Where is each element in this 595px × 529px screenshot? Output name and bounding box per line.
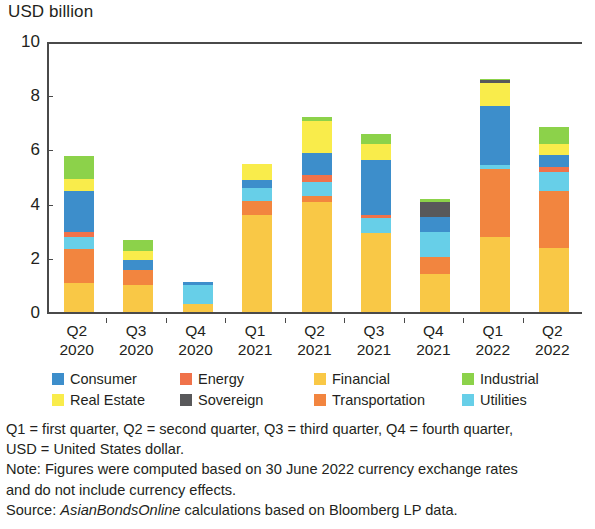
bar-segment-consumer[interactable] bbox=[302, 153, 332, 175]
bar-group[interactable] bbox=[480, 79, 510, 313]
x-axis-label-year: 2021 bbox=[403, 340, 463, 359]
bar-segment-industrial[interactable] bbox=[123, 240, 153, 251]
y-axis-tick-label: 2 bbox=[0, 249, 40, 269]
legend-item-label: Real Estate bbox=[70, 392, 145, 408]
legend-item-label: Sovereign bbox=[198, 392, 263, 408]
stacked-bar[interactable] bbox=[302, 117, 332, 313]
bar-segment-utilities[interactable] bbox=[361, 218, 391, 233]
stacked-bar[interactable] bbox=[183, 282, 213, 313]
bar-segment-consumer[interactable] bbox=[123, 260, 153, 269]
stacked-bar[interactable] bbox=[480, 79, 510, 313]
bar-segment-financial[interactable] bbox=[480, 237, 510, 313]
legend-item-real-estate[interactable]: Real Estate bbox=[52, 392, 180, 408]
legend-item-label: Transportation bbox=[332, 392, 425, 408]
y-axis-tick-mark bbox=[47, 205, 53, 206]
bar-segment-sovereign[interactable] bbox=[420, 202, 450, 217]
bar-segment-real-estate[interactable] bbox=[64, 179, 94, 191]
bar-group[interactable] bbox=[123, 240, 153, 313]
bar-segment-real-estate[interactable] bbox=[123, 251, 153, 260]
y-axis-tick-label: 4 bbox=[0, 195, 40, 215]
bar-segment-utilities[interactable] bbox=[183, 285, 213, 304]
stacked-bar[interactable] bbox=[64, 156, 94, 313]
bar-segment-industrial[interactable] bbox=[361, 134, 391, 143]
bar-segment-financial[interactable] bbox=[539, 248, 569, 313]
x-axis-label-quarter: Q2 bbox=[285, 321, 345, 340]
bar-segment-transportation[interactable] bbox=[480, 169, 510, 237]
footnote-note-line2: and do not include currency effects. bbox=[6, 480, 594, 500]
bar-segment-transportation[interactable] bbox=[123, 270, 153, 285]
bar-segment-consumer[interactable] bbox=[480, 106, 510, 166]
bar-segment-financial[interactable] bbox=[242, 215, 272, 313]
x-axis-label-quarter: Q4 bbox=[166, 321, 226, 340]
bar-segment-financial[interactable] bbox=[361, 233, 391, 313]
source-prefix: Source: bbox=[6, 502, 60, 518]
bar-segment-real-estate[interactable] bbox=[302, 121, 332, 154]
x-axis-label-quarter: Q2 bbox=[522, 321, 582, 340]
bar-segment-industrial[interactable] bbox=[539, 127, 569, 143]
bar-group[interactable] bbox=[64, 156, 94, 313]
bar-segment-financial[interactable] bbox=[123, 285, 153, 313]
bar-segment-transportation[interactable] bbox=[242, 201, 272, 216]
x-axis-line bbox=[47, 312, 582, 314]
bar-group[interactable] bbox=[183, 282, 213, 313]
bar-segment-real-estate[interactable] bbox=[242, 164, 272, 180]
bar-segment-utilities[interactable] bbox=[64, 237, 94, 249]
bar-segment-utilities[interactable] bbox=[302, 182, 332, 197]
bar-segment-real-estate[interactable] bbox=[361, 144, 391, 160]
stacked-bar[interactable] bbox=[242, 164, 272, 313]
legend-item-sovereign[interactable]: Sovereign bbox=[180, 392, 314, 408]
bar-segment-consumer[interactable] bbox=[242, 180, 272, 188]
bar-segment-real-estate[interactable] bbox=[539, 144, 569, 155]
bar-segment-utilities[interactable] bbox=[539, 172, 569, 191]
bar-segment-consumer[interactable] bbox=[361, 160, 391, 216]
bar-segment-real-estate[interactable] bbox=[480, 83, 510, 106]
legend-item-label: Utilities bbox=[480, 392, 527, 408]
legend-swatch-icon bbox=[180, 394, 192, 406]
legend-item-utilities[interactable]: Utilities bbox=[462, 392, 572, 408]
bar-segment-transportation[interactable] bbox=[64, 249, 94, 283]
chart-plot-area bbox=[47, 42, 582, 313]
x-axis-label-year: 2020 bbox=[47, 340, 107, 359]
bar-group[interactable] bbox=[420, 199, 450, 313]
bar-segment-financial[interactable] bbox=[420, 274, 450, 313]
bar-segment-utilities[interactable] bbox=[420, 232, 450, 258]
bar-segment-consumer[interactable] bbox=[420, 217, 450, 232]
legend-swatch-icon bbox=[462, 373, 474, 385]
y-axis-tick-mark bbox=[47, 150, 53, 151]
bar-segment-energy[interactable] bbox=[302, 175, 332, 182]
legend-item-consumer[interactable]: Consumer bbox=[52, 371, 180, 387]
footnote-abbreviations-line1: Q1 = first quarter, Q2 = second quarter,… bbox=[6, 419, 594, 439]
x-axis-label: Q32021 bbox=[344, 321, 404, 359]
bar-group[interactable] bbox=[361, 134, 391, 313]
bar-group[interactable] bbox=[302, 117, 332, 313]
legend-item-financial[interactable]: Financial bbox=[314, 371, 462, 387]
bar-segment-financial[interactable] bbox=[64, 283, 94, 313]
x-axis-label-year: 2021 bbox=[285, 340, 345, 359]
x-axis-label-year: 2020 bbox=[106, 340, 166, 359]
bar-segment-financial[interactable] bbox=[302, 202, 332, 313]
y-axis-title: USD billion bbox=[8, 2, 93, 22]
bar-segment-transportation[interactable] bbox=[420, 257, 450, 273]
bar-group[interactable] bbox=[242, 164, 272, 313]
legend-item-industrial[interactable]: Industrial bbox=[462, 371, 572, 387]
y-axis-tick-label: 6 bbox=[0, 140, 40, 160]
bar-segment-consumer[interactable] bbox=[64, 191, 94, 232]
bar-segment-utilities[interactable] bbox=[242, 188, 272, 200]
x-axis-label: Q32020 bbox=[106, 321, 166, 359]
stacked-bar[interactable] bbox=[420, 199, 450, 313]
bar-segment-transportation[interactable] bbox=[539, 191, 569, 248]
bar-segment-industrial[interactable] bbox=[64, 156, 94, 179]
stacked-bar[interactable] bbox=[361, 134, 391, 313]
stacked-bar[interactable] bbox=[539, 127, 569, 313]
stacked-bar[interactable] bbox=[123, 240, 153, 313]
legend-item-transportation[interactable]: Transportation bbox=[314, 392, 462, 408]
x-axis-label-quarter: Q4 bbox=[403, 321, 463, 340]
legend-swatch-icon bbox=[314, 373, 326, 385]
bar-group[interactable] bbox=[539, 127, 569, 313]
x-axis-label: Q22022 bbox=[522, 321, 582, 359]
bar-segment-consumer[interactable] bbox=[539, 155, 569, 167]
y-axis-tick-mark bbox=[47, 259, 53, 260]
legend-item-energy[interactable]: Energy bbox=[180, 371, 314, 387]
legend-swatch-icon bbox=[52, 373, 64, 385]
y-axis-tick-mark bbox=[47, 96, 53, 97]
